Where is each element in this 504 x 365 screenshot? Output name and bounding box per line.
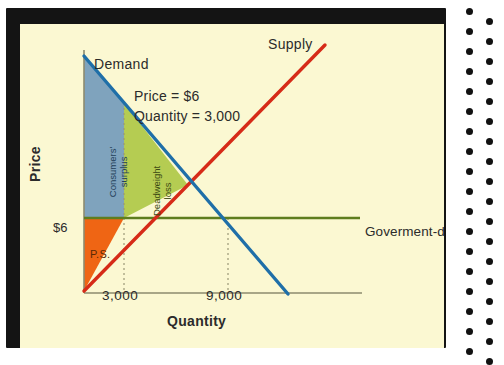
perforation-dot <box>486 298 493 305</box>
perforation-dot <box>466 328 473 335</box>
perforation-dot <box>466 288 473 295</box>
perforation-dot <box>466 148 473 155</box>
perforation-dot <box>466 228 473 235</box>
demand-label: Demand <box>94 57 149 71</box>
perforation-dot <box>486 238 493 245</box>
perforation-dot <box>486 258 493 265</box>
perforation-dot <box>486 278 493 285</box>
consumers-surplus-label: Consumers' surplus <box>108 135 130 209</box>
perforation-dot <box>466 168 473 175</box>
perforation-dot <box>486 218 493 225</box>
perforation-strip <box>452 0 504 360</box>
perforation-dot <box>466 128 473 135</box>
government-price-label: Goverment-dictated price <box>365 225 444 239</box>
price-equilibrium-annotation: Price = $6 <box>134 89 199 103</box>
deadweight-loss-label: Deadweight loss <box>152 154 174 228</box>
supply-label: Supply <box>268 37 313 51</box>
y-axis-tick-price: $6 <box>53 221 67 234</box>
perforation-dot <box>486 78 493 85</box>
perforation-dot <box>486 158 493 165</box>
perforation-dot <box>466 208 473 215</box>
perforation-dot <box>466 268 473 275</box>
perforation-dot <box>466 28 473 35</box>
perforation-dot <box>466 308 473 315</box>
perforation-dot <box>486 338 493 345</box>
perforation-dot <box>486 18 493 25</box>
consumers-surplus-line1: Consumers' <box>107 147 118 197</box>
perforation-dot <box>486 118 493 125</box>
consumers-surplus-line2: surplus <box>118 157 129 188</box>
perforation-dot <box>486 198 493 205</box>
perforation-dot <box>466 8 473 15</box>
producer-surplus-label: P.S. <box>90 249 110 260</box>
perforation-dot <box>466 108 473 115</box>
image-frame: Demand Supply Price = $6 Quantity = 3,00… <box>6 8 446 348</box>
perforation-dot <box>466 348 473 355</box>
deadweight-loss-line1: Deadweight <box>151 166 162 216</box>
x-axis-title: Quantity <box>167 314 226 328</box>
perforation-dot <box>466 188 473 195</box>
quantity-equilibrium-annotation: Quantity = 3,000 <box>134 109 240 123</box>
perforation-dot <box>466 88 473 95</box>
x-axis-tick-9000: 9,000 <box>206 289 242 303</box>
y-axis-title: Price <box>28 146 42 182</box>
x-axis-tick-3000: 3,000 <box>102 289 138 303</box>
figure-page: Demand Supply Price = $6 Quantity = 3,00… <box>20 24 444 348</box>
perforation-dot <box>486 178 493 185</box>
perforation-dot <box>486 58 493 65</box>
perforation-dot <box>486 98 493 105</box>
perforation-dot <box>486 138 493 145</box>
perforation-dot <box>466 48 473 55</box>
deadweight-loss-line2: loss <box>162 182 173 199</box>
perforation-dot <box>466 248 473 255</box>
perforation-dot <box>486 38 493 45</box>
perforation-dot <box>466 68 473 75</box>
perforation-dot <box>486 318 493 325</box>
perforation-dot <box>486 358 493 365</box>
